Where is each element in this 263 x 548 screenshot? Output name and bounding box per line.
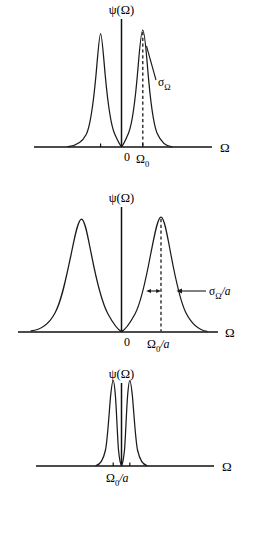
sigma-subscript: Ω [164,82,170,92]
halfwidth-arrow-head-left [146,289,151,293]
chart-panel-original-spectrum: ψ(Ω) Ω 0 Ω0 σΩ [0,0,263,183]
chart-panel-scaled-spectrum: ψ(Ω) Ω 0 Ω0/a σΩ/a [0,183,263,366]
panel-1-svg: ψ(Ω) Ω 0 Ω0 σΩ [0,0,263,183]
y-axis-label: ψ(Ω) [109,191,134,205]
origin-label: 0 [124,335,130,349]
curve-left-peak [96,381,122,466]
curve-left-peak [68,34,122,147]
origin-label: 0 [124,150,130,164]
sigma-over-a: /a [221,285,231,297]
x-axis-label: Ω [220,140,230,155]
x-axis-label: Ω [225,325,235,340]
tick-label-base: Ω [147,337,156,351]
halfwidth-arrow-head-right [156,289,161,293]
sigma-omega-over-a-label: σΩ/a [209,285,231,301]
y-axis-label: ψ(Ω) [109,3,134,17]
y-axis-label: ψ(Ω) [109,367,134,381]
tick-label-omega-zero: Ω0 [136,152,149,169]
panel-2-svg: ψ(Ω) Ω 0 Ω0/a σΩ/a [0,183,263,366]
curve-left-peak [31,219,122,332]
x-axis-label: Ω [222,459,232,474]
tick-label-omega-zero-over-a: Ω0/a [106,471,129,488]
tick-label-omega-zero-base: Ω [136,152,145,166]
tick-label-omega-zero-over-a: Ω0/a [147,337,170,354]
curve-right-peak [122,381,148,466]
tick-label-base: Ω [106,471,115,485]
tick-label-over-a: /a [159,337,169,351]
tick-label-omega-zero-sub: 0 [145,159,149,169]
tick-label-over-a: /a [118,471,128,485]
sigma-omega-label: σΩ [158,76,171,92]
panel-3-svg: ψ(Ω) Ω Ω0/a [0,366,263,548]
figure-container: ψ(Ω) Ω 0 Ω0 σΩ [0,0,263,548]
curve-right-peak [122,217,208,332]
chart-panel-narrow-doublet: ψ(Ω) Ω Ω0/a [0,366,263,548]
